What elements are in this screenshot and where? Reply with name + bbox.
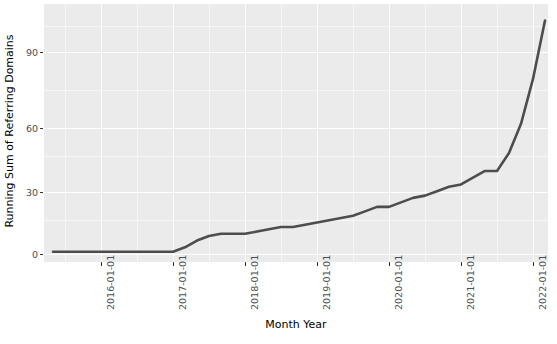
y-tick-label-90: 90 — [14, 47, 38, 58]
y-tick-label-30: 30 — [14, 187, 38, 198]
x-tick-mark-2021 — [461, 262, 462, 266]
x-tick-label-2022: 2022-01-01 — [537, 255, 548, 310]
x-tick-mark-2019 — [317, 262, 318, 266]
x-tick-label-2019: 2019-01-01 — [321, 255, 332, 310]
plot-panel — [44, 4, 548, 262]
x-tick-label-2016: 2016-01-01 — [105, 255, 116, 310]
x-tick-label-2017: 2017-01-01 — [177, 255, 188, 310]
y-tick-mark-0 — [40, 254, 43, 255]
x-tick-mark-2020 — [389, 262, 390, 266]
chart-container: Running Sum of Referring Domains 0 30 60… — [0, 0, 557, 344]
y-tick-label-60: 60 — [14, 123, 38, 134]
x-tick-mark-2016 — [101, 262, 102, 266]
x-axis-title: Month Year — [44, 318, 548, 331]
y-tick-mark-60 — [40, 128, 43, 129]
x-tick-mark-2017 — [173, 262, 174, 266]
x-tick-label-2021: 2021-01-01 — [465, 255, 476, 310]
x-tick-label-2020: 2020-01-01 — [393, 255, 404, 310]
x-tick-mark-2018 — [245, 262, 246, 266]
y-tick-mark-90 — [40, 52, 43, 53]
y-tick-mark-30 — [40, 192, 43, 193]
x-tick-mark-2022 — [533, 262, 534, 266]
x-tick-label-2018: 2018-01-01 — [249, 255, 260, 310]
series-line — [44, 4, 548, 262]
y-tick-label-0: 0 — [14, 249, 38, 260]
